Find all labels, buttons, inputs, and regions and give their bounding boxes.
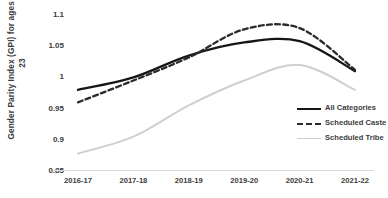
legend-item-label: Scheduled Tribe [322, 133, 384, 142]
legend: All CategoriesScheduled CasteScheduled T… [296, 103, 388, 148]
legend-item[interactable]: Scheduled Tribe [296, 133, 388, 144]
x-axis-tick-label: 2016-17 [50, 176, 106, 185]
line-chart: Gender Parity Index (GPI) for ages 18-23… [0, 0, 388, 198]
series-line-all-categories [78, 39, 355, 90]
x-axis-tick-label: 2019-20 [216, 176, 272, 185]
x-axis-tick-label: 2021-22 [327, 176, 383, 185]
x-axis-tick-label: 2020-21 [272, 176, 328, 185]
x-axis-tick-label: 2018-19 [161, 176, 217, 185]
x-axis-tick-label: 2017-18 [105, 176, 161, 185]
legend-item-label: All Categories [322, 103, 376, 112]
legend-item[interactable]: Scheduled Caste [296, 118, 388, 129]
legend-item[interactable]: All Categories [296, 103, 388, 114]
series-line-scheduled-caste [78, 24, 355, 102]
legend-swatch-icon [296, 134, 322, 144]
legend-swatch-icon [296, 119, 322, 129]
legend-swatch-icon [296, 104, 322, 114]
legend-item-label: Scheduled Caste [322, 118, 386, 127]
plot-area [0, 0, 388, 198]
